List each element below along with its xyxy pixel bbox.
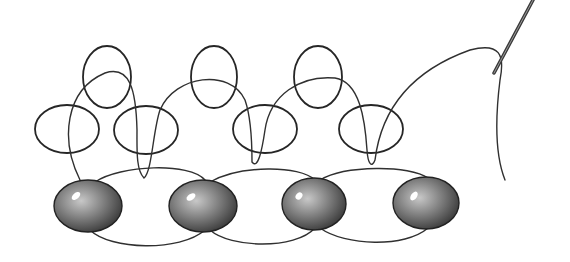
bead [282,178,346,230]
needle-icon [494,0,533,73]
top-loops [83,46,342,108]
lower-thread-ovals [90,168,428,246]
bead [169,180,237,232]
arching-threads [69,48,505,180]
bead [54,180,122,232]
beadwork-illustration [0,0,570,262]
middle-loops [35,105,403,154]
beads [54,177,459,232]
bead [393,177,459,229]
